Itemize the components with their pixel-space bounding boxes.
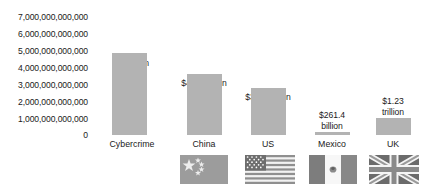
bar-chart: 7,000,000,000,000 6,000,000,000,000 5,00… xyxy=(0,0,425,188)
category-label-mexico: Mexico xyxy=(296,139,368,149)
plot-area: $6 trillion Cybercrime $4.45 trillion Ch… xyxy=(90,0,425,188)
bar-mexico xyxy=(315,132,350,136)
bar-group-uk: $1.23 trillion UK xyxy=(361,0,425,188)
china-flag xyxy=(180,155,228,184)
bar-uk xyxy=(376,118,411,135)
y-tick-label: 5,000,000,000,000 xyxy=(0,47,88,56)
bar-value-label: $261.4 billion xyxy=(296,110,368,131)
y-tick-label: 7,000,000,000,000 xyxy=(0,13,88,22)
category-label-china: China xyxy=(168,139,240,149)
y-tick-label: 1,000,000,000,000 xyxy=(0,115,88,124)
bar-group-us: $3.42 trillion US xyxy=(233,0,303,188)
y-tick-label: 6,000,000,000,000 xyxy=(0,30,88,39)
uk-flag xyxy=(369,155,419,184)
bar-group-mexico: $261.4 billion Mexico xyxy=(296,0,368,188)
bar-china xyxy=(187,74,222,135)
bar-group-cybercrime: $6 trillion Cybercrime xyxy=(90,0,174,188)
bar-group-china: $4.45 trillion China xyxy=(168,0,240,188)
category-label-us: US xyxy=(233,139,303,149)
y-tick-label: 3,000,000,000,000 xyxy=(0,81,88,90)
y-tick-label: 4,000,000,000,000 xyxy=(0,64,88,73)
us-flag xyxy=(245,155,295,184)
mexico-flag xyxy=(309,155,357,184)
y-axis: 7,000,000,000,000 6,000,000,000,000 5,00… xyxy=(0,0,90,188)
bar-cybercrime xyxy=(112,53,147,135)
y-tick-label: 2,000,000,000,000 xyxy=(0,98,88,107)
category-label-uk: UK xyxy=(361,139,425,149)
bar-value-label: $1.23 trillion xyxy=(361,96,425,117)
bar-us xyxy=(251,88,286,135)
category-label-cybercrime: Cybercrime xyxy=(90,139,174,149)
y-tick-label: 0 xyxy=(0,131,88,140)
